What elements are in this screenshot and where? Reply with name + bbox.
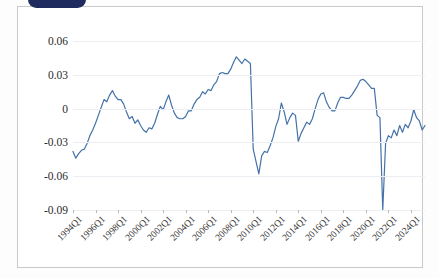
y-tick-label: -0.06 bbox=[44, 170, 68, 182]
x-tick-mark bbox=[276, 210, 277, 213]
x-tick-mark bbox=[118, 210, 119, 213]
x-tick-mark bbox=[231, 210, 232, 213]
chart-page: 0.060.030-0.03-0.06-0.09 1994Q11996Q1199… bbox=[0, 0, 439, 278]
y-tick-label: 0.06 bbox=[48, 35, 68, 47]
y-tick-label: -0.09 bbox=[44, 204, 68, 216]
x-tick-mark bbox=[298, 210, 299, 213]
y-tick-label: -0.03 bbox=[44, 136, 68, 148]
x-tick-mark bbox=[163, 210, 164, 213]
x-tick-mark bbox=[366, 210, 367, 213]
x-tick-mark bbox=[321, 210, 322, 213]
series-polyline bbox=[73, 57, 425, 210]
line-series bbox=[73, 41, 425, 210]
x-tick-mark bbox=[411, 210, 412, 213]
x-tick-mark bbox=[73, 210, 74, 213]
x-axis-labels: 1994Q11996Q11998Q12000Q12002Q12004Q12006… bbox=[73, 214, 425, 264]
gridline-3 bbox=[73, 142, 425, 143]
y-tick-label: 0 bbox=[62, 103, 68, 115]
x-tick-mark bbox=[388, 210, 389, 213]
y-tick-label: 0.03 bbox=[48, 69, 68, 81]
gridline-1 bbox=[73, 75, 425, 76]
x-tick-mark bbox=[186, 210, 187, 213]
chart-frame: 0.060.030-0.03-0.06-0.09 1994Q11996Q1199… bbox=[17, 6, 423, 268]
x-tick-mark bbox=[96, 210, 97, 213]
x-tick-mark bbox=[141, 210, 142, 213]
y-axis-labels: 0.060.030-0.03-0.06-0.09 bbox=[18, 41, 68, 210]
gridline-4 bbox=[73, 176, 425, 177]
corner-badge bbox=[28, 0, 86, 8]
gridline-0 bbox=[73, 41, 425, 42]
x-tick-mark bbox=[208, 210, 209, 213]
plot-area bbox=[73, 41, 425, 210]
gridline-2 bbox=[73, 109, 425, 110]
x-tick-mark bbox=[253, 210, 254, 213]
x-tick-mark bbox=[343, 210, 344, 213]
